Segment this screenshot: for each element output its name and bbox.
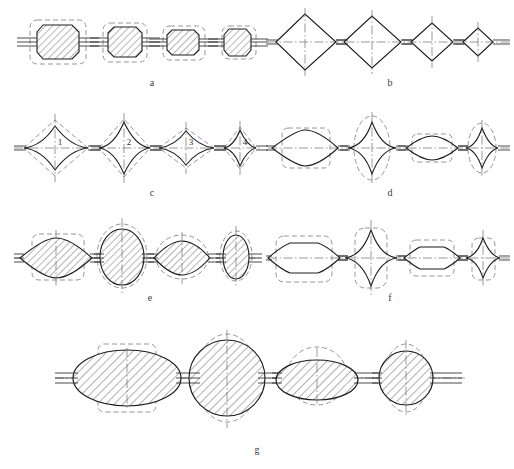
row-label-b: b [388,77,393,88]
row-label-a: a [150,77,155,88]
section-number-4: 4 [243,137,248,147]
row-label-c: c [150,187,155,198]
octagon-section [224,29,251,56]
row-label-d: d [388,187,393,198]
row-label-e: e [148,292,153,303]
section-number-2: 2 [127,137,132,147]
figure-container: a b [0,0,514,469]
section-number-1: 1 [58,137,63,147]
octagon-section [167,30,199,55]
section-number-3: 3 [189,137,194,147]
octagon-section [108,27,142,57]
technical-figure-svg: a b [0,0,514,469]
row-label-g: g [255,444,260,455]
octagon-section [37,25,79,59]
